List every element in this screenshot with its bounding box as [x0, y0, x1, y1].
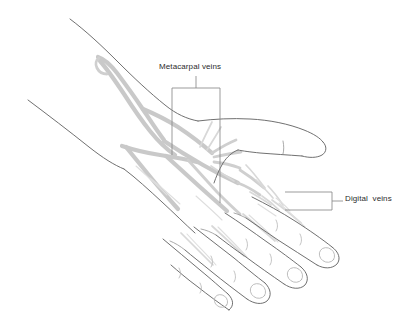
nail-index: [316, 245, 337, 266]
crease-ring-dip: [234, 271, 236, 282]
ring-finger-lower: [185, 250, 247, 299]
crease-little-dip: [200, 283, 202, 293]
hand-veins-illustration: [0, 0, 415, 311]
thumb-upper-edge: [198, 119, 323, 142]
crease-index-pip: [276, 220, 278, 231]
index-finger-lower: [246, 218, 317, 265]
little-finger-tip: [228, 294, 233, 310]
digital-vein-ring-b: [218, 227, 247, 257]
anatomy-figure: Metacarpal veins Digital veins: [0, 0, 415, 311]
ulnar-border: [124, 169, 195, 233]
digital-vein-middle: [243, 214, 275, 241]
thumb-web-vein-b: [214, 152, 241, 157]
nail-little: [212, 292, 230, 310]
digital-vein-middle-b: [249, 215, 278, 242]
forearm-lower-edge: [28, 100, 124, 169]
digital-vein-ring: [212, 226, 244, 256]
dorsum-shadow-1: [150, 178, 180, 204]
middle-finger-tip: [284, 267, 307, 288]
thumb-crease: [283, 141, 284, 154]
digital-vein-index-b: [279, 203, 305, 227]
crease-index-dip: [300, 234, 302, 245]
thumb-web-vein-c: [214, 162, 240, 168]
ring-finger-tip: [247, 283, 270, 303]
digital-plexus-9: [258, 204, 276, 216]
digital-vein-little-b: [187, 234, 216, 265]
thumb-web-vein-a: [212, 140, 236, 153]
thumb-tip: [302, 142, 326, 157]
thumb-web-vein-e: [207, 127, 221, 150]
middle-finger-upper: [225, 213, 301, 267]
dorsum-shadow-2: [136, 166, 167, 195]
thumb-lower-edge: [238, 150, 302, 156]
label-metacarpal-veins: Metacarpal veins: [159, 62, 221, 72]
middle-finger-lower: [216, 235, 284, 284]
web-ring-little: [170, 241, 185, 250]
crease-middle-pip: [246, 239, 248, 250]
radial-border-vein: [143, 109, 212, 153]
dorsum-shadow-3: [196, 196, 222, 220]
crease-ring-pip: [211, 256, 213, 267]
digital-plexus-1: [238, 183, 260, 195]
digital-callout-box: [285, 192, 332, 210]
crease-middle-dip: [270, 254, 272, 265]
ring-finger-upper: [194, 227, 265, 283]
label-digital-veins: Digital veins: [345, 194, 392, 204]
